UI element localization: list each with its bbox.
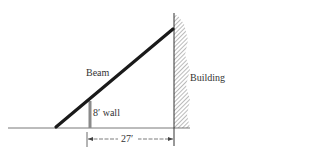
arrow-right-icon <box>168 137 173 141</box>
distance-label: 27′ <box>121 133 133 144</box>
building-hatch <box>174 14 190 128</box>
arrow-left-icon <box>88 137 93 141</box>
building-label: Building <box>190 72 225 83</box>
short-wall <box>89 101 92 128</box>
wall-label: 8′ wall <box>93 107 120 118</box>
beam-label: Beam <box>86 67 109 78</box>
